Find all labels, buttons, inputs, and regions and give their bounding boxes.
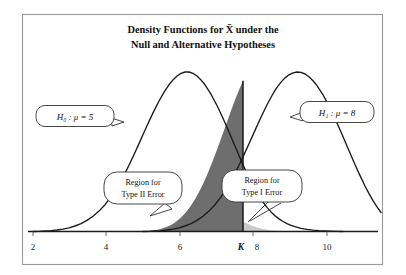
type-ii-callout-line-2: Type II Error <box>121 190 164 199</box>
null-hypothesis-callout-text: H₀ : μ = 5 <box>56 112 94 122</box>
figure-container: Density Functions for X̄ under the Null … <box>0 0 406 275</box>
critical-value-label: K <box>237 242 245 252</box>
type-ii-callout-line-1: Region for <box>125 178 161 187</box>
type-i-callout-line-1: Region for <box>244 176 280 185</box>
x-axis-label-4: 4 <box>104 242 109 252</box>
alt-hypothesis-callout-text: H₁ : μ = 8 <box>318 108 356 118</box>
chart-title-line-1: Density Functions for X̄ under the <box>127 24 279 35</box>
chart-title-line-2: Null and Alternative Hypotheses <box>131 39 275 50</box>
x-axis-label-8: 8 <box>255 242 260 252</box>
x-axis-label-6: 6 <box>178 242 183 252</box>
type-i-callout-line-2: Type I Error <box>242 188 283 197</box>
x-axis-label-2: 2 <box>31 242 36 252</box>
x-axis-label-10: 10 <box>323 242 333 252</box>
density-functions-chart: Density Functions for X̄ under the Null … <box>0 0 406 275</box>
